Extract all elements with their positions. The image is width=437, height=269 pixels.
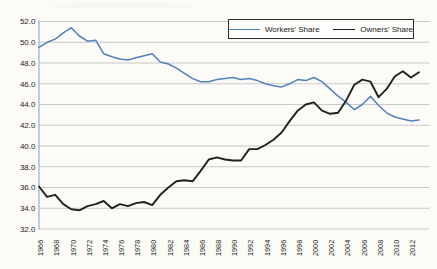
y-tick-label: 52.0 — [20, 17, 36, 26]
y-tick-label: 34.0 — [20, 204, 36, 213]
workers-share-line — [39, 28, 419, 121]
y-tick-label: 32.0 — [20, 225, 36, 234]
x-tick-label: 1984 — [182, 240, 191, 256]
x-tick-label: 1996 — [279, 240, 288, 256]
y-tick-label: 38.0 — [20, 163, 36, 172]
y-tick-label: 40.0 — [20, 142, 36, 151]
x-tick-label: 1972 — [85, 240, 94, 256]
gridlines — [39, 22, 430, 230]
x-tick-label: 2004 — [343, 240, 352, 256]
series-lines — [39, 28, 419, 211]
owners-share-line — [39, 71, 419, 210]
y-tick-label: 48.0 — [20, 59, 36, 68]
x-tick-label: 1990 — [230, 240, 239, 256]
legend: Workers' Share Owners' Share — [228, 19, 414, 39]
y-tick-label: 46.0 — [20, 80, 36, 89]
y-tick-label: 44.0 — [20, 100, 36, 109]
x-tick-label: 1980 — [149, 240, 158, 256]
share-line-chart: 52.050.048.046.044.042.040.038.036.034.0… — [0, 0, 437, 269]
x-tick-label: 1986 — [198, 240, 207, 256]
x-tick-label: 2010 — [392, 240, 401, 256]
workers-line-sample — [229, 29, 260, 30]
x-tick-label: 1968 — [52, 240, 61, 256]
x-tick-label: 1988 — [214, 240, 223, 256]
x-tick-label: 2008 — [376, 240, 385, 256]
y-tick-label: 36.0 — [20, 183, 36, 192]
x-tick-label: 1978 — [133, 240, 142, 256]
x-tick-label: 1966 — [36, 240, 45, 256]
legend-label-workers: Workers' Share — [265, 25, 320, 34]
x-tick-label: 2002 — [327, 240, 336, 256]
x-tick-label: 1994 — [263, 240, 272, 256]
chart-page: 52.050.048.046.044.042.040.038.036.034.0… — [0, 0, 437, 269]
legend-label-owners: Owners' Share — [360, 25, 413, 34]
owners-line-sample — [333, 29, 356, 30]
y-tick-label: 42.0 — [20, 121, 36, 130]
x-tick-label: 1970 — [69, 240, 78, 256]
y-tick-label: 50.0 — [20, 38, 36, 47]
x-axis-labels: 1966196819701972197419761978198019821984… — [36, 240, 417, 256]
x-tick-label: 2006 — [360, 240, 369, 256]
x-tick-label: 1974 — [101, 240, 110, 256]
x-tick-label: 2012 — [408, 240, 417, 256]
x-tick-label: 1992 — [246, 240, 255, 256]
x-tick-label: 1976 — [117, 240, 126, 256]
x-tick-label: 1982 — [166, 240, 175, 256]
x-tick-label: 1998 — [295, 240, 304, 256]
x-tick-label: 2000 — [311, 240, 320, 256]
y-axis-labels: 52.050.048.046.044.042.040.038.036.034.0… — [20, 17, 36, 234]
